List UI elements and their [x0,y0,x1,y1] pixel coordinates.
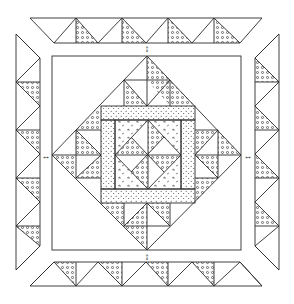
bottom-border [30,262,262,286]
top-border [30,18,262,43]
arrow-bottom-icon: ↕ [145,251,150,262]
right-border [255,34,279,270]
arrow-left-icon: ↔ [42,151,51,161]
core-block [115,120,181,189]
arrow-top-icon: ↕ [145,43,150,54]
arrow-right-icon: ↔ [244,151,253,161]
quilt-diagram: ↕ ↕ ↔ ↔ [0,0,294,304]
left-border [16,34,40,270]
